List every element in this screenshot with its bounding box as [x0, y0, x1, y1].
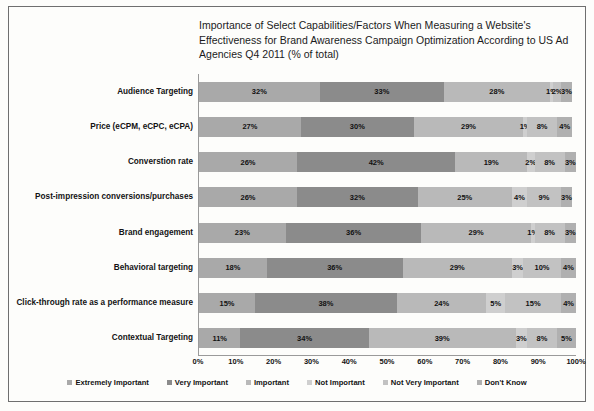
x-axis-tick-label: 50%: [379, 357, 394, 366]
bar-segment: 10%: [523, 258, 561, 278]
legend-item[interactable]: Don't Know: [477, 378, 527, 387]
category-label: Behavioral targeting: [3, 263, 193, 272]
category-label: Post-impression conversions/purchases: [3, 192, 193, 201]
x-axis-tick-label: 70%: [455, 357, 470, 366]
bar-segment: 2%: [553, 82, 561, 102]
bar-row: 18%36%29%3%10%4%: [199, 258, 576, 278]
legend-label: Important: [254, 378, 289, 387]
bar-segment: 24%: [397, 293, 487, 313]
bar-segment: 32%: [199, 82, 320, 102]
legend-item[interactable]: Important: [246, 378, 289, 387]
category-label: Brand engagement: [3, 228, 193, 237]
bar-segment: 29%: [421, 223, 530, 243]
bar-segment: 18%: [199, 258, 267, 278]
bar-row: 15%38%24%5%15%4%: [199, 293, 576, 313]
bar-segment: 8%: [535, 223, 565, 243]
legend-swatch-icon: [307, 380, 312, 385]
legend-swatch-icon: [246, 380, 251, 385]
x-axis-tick-label: 30%: [304, 357, 319, 366]
bar-row: 23%36%29%1%8%3%: [199, 223, 576, 243]
bar-segment: 3%: [561, 82, 572, 102]
bar-segment: 27%: [199, 117, 301, 137]
bar-segment: 9%: [527, 187, 561, 207]
plot-area: 32%33%28%1%2%3%27%30%29%1%8%4%26%42%19%2…: [198, 74, 576, 356]
category-label: Converstion rate: [3, 157, 193, 166]
x-axis-tick-label: 20%: [266, 357, 281, 366]
bar-segment: 5%: [557, 328, 576, 348]
bar-segment: 4%: [512, 187, 527, 207]
x-axis-tick-label: 0%: [193, 357, 204, 366]
bar-segment: 4%: [557, 117, 572, 137]
bar-segment: 34%: [240, 328, 368, 348]
bar-segment: 25%: [418, 187, 512, 207]
bar-segment: 5%: [486, 293, 505, 313]
bar-segment: 3%: [516, 328, 527, 348]
legend-label: Extremely Important: [75, 378, 148, 387]
bar-segment: 3%: [512, 258, 523, 278]
bar-segment: 38%: [255, 293, 397, 313]
bar-segment: 39%: [369, 328, 516, 348]
bar-segment: 33%: [320, 82, 444, 102]
legend-label: Very Important: [175, 378, 228, 387]
x-axis-tick-label: 80%: [493, 357, 508, 366]
bar-segment: 11%: [199, 328, 240, 348]
bar-segment: 8%: [527, 328, 557, 348]
x-axis-tick-label: 100%: [566, 357, 585, 366]
category-label: Audience Targeting: [3, 87, 193, 96]
bar-row: 11%34%39%3%8%5%: [199, 328, 576, 348]
legend-item[interactable]: Extremely Important: [67, 378, 148, 387]
bar-segment: 8%: [535, 152, 565, 172]
bar-rows: 32%33%28%1%2%3%27%30%29%1%8%4%26%42%19%2…: [199, 74, 576, 355]
legend-swatch-icon: [67, 380, 72, 385]
bar-segment: 42%: [297, 152, 455, 172]
x-axis-tick-label: 40%: [342, 357, 357, 366]
legend-item[interactable]: Not Very Important: [383, 378, 459, 387]
bar-segment: 36%: [286, 223, 422, 243]
x-axis-tick-label: 60%: [417, 357, 432, 366]
bar-segment: 19%: [455, 152, 527, 172]
bar-segment: 2%: [527, 152, 535, 172]
legend-label: Not Very Important: [391, 378, 459, 387]
chart-title: Importance of Select Capabilities/Factor…: [199, 18, 571, 62]
category-label: Click-through rate as a performance meas…: [3, 298, 193, 307]
bar-segment: 15%: [505, 293, 561, 313]
bar-row: 32%33%28%1%2%3%: [199, 82, 576, 102]
bar-segment: 28%: [444, 82, 550, 102]
bar-segment: 36%: [267, 258, 403, 278]
x-axis-tick-label: 90%: [531, 357, 546, 366]
x-axis-ticks: 0%10%20%30%40%50%60%70%80%90%100%: [198, 357, 576, 371]
bar-segment: 30%: [301, 117, 414, 137]
legend-swatch-icon: [167, 380, 172, 385]
bar-segment: 4%: [561, 258, 576, 278]
bar-segment: 3%: [561, 187, 572, 207]
chart-legend: Extremely ImportantVery ImportantImporta…: [8, 378, 586, 387]
legend-swatch-icon: [477, 380, 482, 385]
bar-segment: 26%: [199, 187, 297, 207]
legend-item[interactable]: Very Important: [167, 378, 228, 387]
category-labels: Audience TargetingPrice (eCPM, eCPC, eCP…: [0, 74, 193, 356]
legend-label: Not Important: [315, 378, 365, 387]
bar-row: 26%32%25%4%9%3%: [199, 187, 576, 207]
chart-container: Importance of Select Capabilities/Factor…: [0, 0, 594, 411]
bar-segment: 32%: [297, 187, 418, 207]
bar-segment: 3%: [565, 223, 576, 243]
bar-segment: 3%: [565, 152, 576, 172]
legend-label: Don't Know: [485, 378, 527, 387]
x-axis-tick-label: 10%: [228, 357, 243, 366]
bar-segment: 23%: [199, 223, 286, 243]
bar-segment: 26%: [199, 152, 297, 172]
legend-swatch-icon: [383, 380, 388, 385]
bar-row: 26%42%19%2%8%3%: [199, 152, 576, 172]
bar-segment: 4%: [561, 293, 576, 313]
bar-segment: 29%: [414, 117, 523, 137]
legend-item[interactable]: Not Important: [307, 378, 365, 387]
category-label: Contextual Targeting: [3, 333, 193, 342]
category-label: Price (eCPM, eCPC, eCPA): [3, 122, 193, 131]
bar-segment: 29%: [403, 258, 512, 278]
bar-segment: 8%: [527, 117, 557, 137]
bar-row: 27%30%29%1%8%4%: [199, 117, 576, 137]
bar-segment: 15%: [199, 293, 255, 313]
